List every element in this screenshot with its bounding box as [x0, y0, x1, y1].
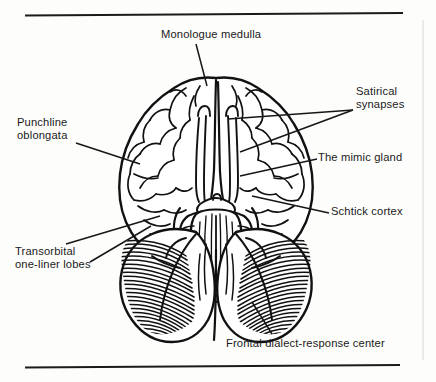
label-satirical-synapses-line2: synapses: [356, 98, 404, 111]
label-satirical-synapses-line1: Satirical: [356, 85, 404, 98]
label-punchline-oblongata-line1: Punchline: [17, 116, 68, 129]
label-frontal-dialect-response-center: Frontal dialect-response center: [226, 337, 385, 350]
figure-page: Monologue medulla Satirical synapses The…: [0, 0, 436, 382]
label-the-mimic-gland-text: The mimic gland: [318, 151, 402, 163]
top-rule: [25, 13, 403, 16]
label-schtick-cortex: Schtick cortex: [331, 205, 403, 218]
label-the-mimic-gland: The mimic gland: [318, 151, 402, 164]
label-monologue-medulla-text: Monologue medulla: [161, 28, 261, 40]
label-schtick-cortex-text: Schtick cortex: [331, 205, 403, 217]
label-satirical-synapses: Satirical synapses: [356, 85, 404, 112]
brain-illustration: [110, 77, 322, 352]
label-frontal-dialect-response-center-text: Frontal dialect-response center: [226, 337, 385, 349]
label-punchline-oblongata-line2: oblongata: [17, 129, 68, 142]
label-monologue-medulla: Monologue medulla: [161, 28, 261, 41]
label-transorbital-one-liner-lobes-line1: Transorbital: [15, 245, 91, 258]
label-transorbital-one-liner-lobes-line2: one-liner lobes: [15, 258, 91, 271]
label-punchline-oblongata: Punchline oblongata: [17, 116, 68, 143]
label-transorbital-one-liner-lobes: Transorbital one-liner lobes: [15, 245, 91, 272]
bottom-rule: [25, 365, 400, 368]
brain-diagram: [0, 0, 436, 382]
